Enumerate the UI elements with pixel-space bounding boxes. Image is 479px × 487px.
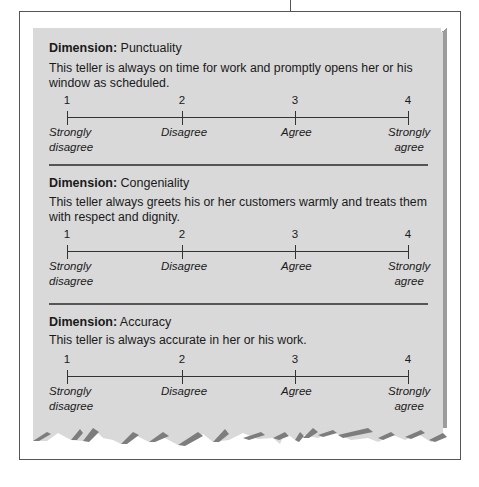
scale-tick-4[interactable] (408, 370, 409, 384)
torn-edge-decoration (33, 420, 449, 450)
scale-label-strongly-disagree: Strongly disagree (49, 125, 93, 155)
rating-scale: 1 2 3 4 Strongly disagree Disagree Agree… (49, 94, 435, 154)
dimension-title: Dimension: Punctuality (49, 41, 182, 55)
scale-tick-4[interactable] (408, 111, 409, 125)
scale-tick-2[interactable] (182, 370, 183, 384)
scale-label-disagree: Disagree (161, 125, 207, 140)
scale-tick-1[interactable] (67, 111, 68, 125)
scale-line (67, 117, 408, 118)
scale-label-strongly-agree: Strongly agree (388, 125, 430, 155)
connector-line (290, 0, 291, 11)
scale-tick-3[interactable] (295, 370, 296, 384)
scale-label-agree: Agree (281, 384, 312, 399)
scale-label-strongly-disagree: Strongly disagree (49, 384, 93, 414)
dimension-title: Dimension: Accuracy (49, 315, 171, 329)
card-edge-shadow (443, 31, 447, 428)
scale-label-disagree: Disagree (161, 384, 207, 399)
scale-label-disagree: Disagree (161, 259, 207, 274)
scale-label-strongly-agree: Strongly agree (388, 259, 430, 289)
scale-tick-1[interactable] (67, 245, 68, 259)
dimension-description: This teller always greets his or her cus… (49, 195, 434, 225)
scale-value-3: 3 (292, 228, 298, 240)
scale-tick-2[interactable] (182, 111, 183, 125)
dimension-description: This teller is always accurate in her or… (49, 333, 434, 348)
card-edge-corner (441, 28, 447, 32)
scale-value-1: 1 (64, 353, 70, 365)
rating-scale: 1 2 3 4 Strongly disagree Disagree Agree… (49, 353, 435, 413)
scale-tick-1[interactable] (67, 370, 68, 384)
scale-value-1: 1 (64, 228, 70, 240)
scale-value-4: 4 (405, 228, 411, 240)
scale-line (67, 376, 408, 377)
dimension-name: Punctuality (121, 41, 182, 55)
dimension-name: Accuracy (120, 315, 171, 329)
scale-value-4: 4 (405, 94, 411, 106)
scale-value-1: 1 (64, 94, 70, 106)
dimension-name: Congeniality (121, 176, 190, 190)
scale-tick-3[interactable] (295, 111, 296, 125)
scale-value-2: 2 (179, 353, 185, 365)
rating-scale: 1 2 3 4 Strongly disagree Disagree Agree… (49, 228, 435, 288)
scale-value-2: 2 (179, 228, 185, 240)
dimension-label: Dimension: (49, 41, 117, 55)
scale-value-2: 2 (179, 94, 185, 106)
dimension-label: Dimension: (49, 176, 117, 190)
dimension-label: Dimension: (49, 315, 117, 329)
rating-card: Dimension: Punctuality This teller is al… (33, 28, 447, 428)
scale-value-3: 3 (292, 94, 298, 106)
section-divider (49, 164, 428, 166)
scale-label-strongly-disagree: Strongly disagree (49, 259, 93, 289)
scale-tick-3[interactable] (295, 245, 296, 259)
scale-label-strongly-agree: Strongly agree (388, 384, 430, 414)
scale-label-agree: Agree (281, 259, 312, 274)
dimension-title: Dimension: Congeniality (49, 176, 189, 190)
scale-tick-4[interactable] (408, 245, 409, 259)
scale-value-3: 3 (292, 353, 298, 365)
scale-value-4: 4 (405, 353, 411, 365)
dimension-description: This teller is always on time for work a… (49, 61, 434, 91)
section-divider (49, 303, 428, 305)
scale-tick-2[interactable] (182, 245, 183, 259)
scale-label-agree: Agree (281, 125, 312, 140)
scale-line (67, 251, 408, 252)
